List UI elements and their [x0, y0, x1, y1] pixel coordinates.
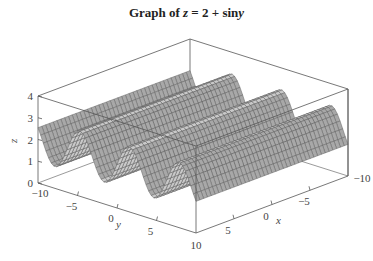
y-tick-label: −10: [31, 187, 49, 199]
z-tick-label: 3: [28, 112, 34, 124]
z-tick: [38, 118, 42, 119]
y-tick: [117, 204, 118, 208]
x-tick: [233, 215, 234, 219]
x-tick: [309, 186, 310, 190]
z-tick: [38, 140, 42, 141]
y-tick-label: 0: [108, 212, 114, 224]
z-axis-label: z: [7, 138, 19, 144]
y-tick: [157, 217, 158, 221]
z-tick-label: 1: [28, 155, 34, 167]
y-tick-label: 5: [148, 225, 154, 237]
z-tick: [38, 161, 42, 162]
y-tick-label: −5: [66, 200, 78, 212]
z-tick-label: 4: [28, 90, 34, 102]
x-tick-label: 0: [263, 210, 269, 222]
x-tick-label: −10: [353, 172, 371, 184]
x-tick-label: −5: [298, 195, 310, 207]
y-tick: [78, 192, 79, 196]
z-tick: [38, 96, 42, 97]
x-tick-label: 5: [225, 224, 231, 236]
y-axis-label: y: [115, 218, 121, 230]
surface-plot: 01234−10−50510−10−505 z y x: [0, 0, 373, 261]
y-tick-label: 10: [191, 239, 203, 251]
x-axis-label: x: [275, 214, 281, 226]
z-tick-label: 2: [28, 134, 34, 146]
z-tick: [38, 183, 42, 184]
x-tick: [271, 201, 272, 205]
surface-mesh: [38, 71, 348, 202]
